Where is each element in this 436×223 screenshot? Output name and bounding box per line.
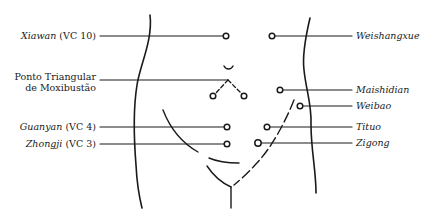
triangle-arm-right <box>228 80 242 94</box>
label-guanyan-name: Guanyan <box>20 121 63 132</box>
label-zhongji-code: (VC 3) <box>62 138 96 149</box>
label-xiawan-code: (VC 10) <box>56 30 96 41</box>
label-ponto-triangular-line2: de Moxibustão <box>14 82 96 93</box>
pubic-arc <box>209 158 239 163</box>
point-maishidian <box>277 87 283 93</box>
pubic-v-left <box>207 166 231 187</box>
label-zigong: Zigong <box>356 137 390 148</box>
navel-mark <box>224 66 233 69</box>
label-weishangxue: Weishangxue <box>356 30 420 41</box>
label-xiawan-name: Xiawan <box>21 30 56 41</box>
point-zhongji <box>224 141 230 147</box>
point-triangle-left <box>210 93 216 99</box>
label-xiawan: Xiawan (VC 10) <box>21 30 96 41</box>
label-maishidian: Maishidian <box>356 84 409 95</box>
point-xiawan <box>223 33 229 39</box>
label-ponto-triangular: Ponto Triangular de Moxibustão <box>14 71 96 93</box>
label-zhongji-name: Zhongji <box>26 138 63 149</box>
point-zigong <box>255 140 261 146</box>
triangle-arm-left <box>215 80 228 94</box>
point-weishangxue <box>269 33 275 39</box>
label-zhongji: Zhongji (VC 3) <box>26 138 96 149</box>
point-guanyan <box>224 124 230 130</box>
label-weibao: Weibao <box>356 100 391 111</box>
point-weibao <box>297 103 303 109</box>
label-ponto-triangular-line1: Ponto Triangular <box>14 71 96 82</box>
label-tituo: Tituo <box>356 121 381 132</box>
label-guanyan: Guanyan (VC 4) <box>20 121 96 132</box>
left-body-contour <box>134 15 150 208</box>
point-triangle-right <box>241 93 247 99</box>
point-tituo <box>264 124 270 130</box>
label-guanyan-code: (VC 4) <box>62 121 96 132</box>
left-abdominal-curve <box>163 110 198 152</box>
